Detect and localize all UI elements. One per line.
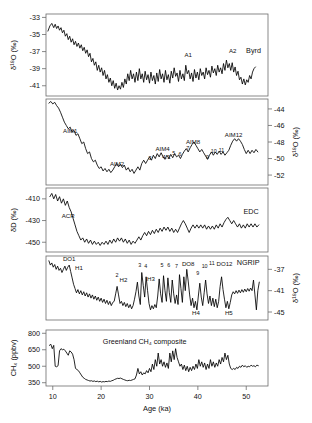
x-tick-label: 50 (242, 392, 250, 401)
annotation-label: 11 (219, 147, 225, 153)
annotation-label: DO12 (217, 260, 234, 267)
y-axis-label: δD (‰) (9, 208, 18, 232)
annotation-label: 11 (209, 260, 215, 266)
y-axis-label: δ¹⁸O (‰) (291, 127, 300, 157)
annotation-label: 7 (175, 263, 178, 269)
annotation-label: Byrd (246, 46, 261, 55)
annotation-label: ACR (62, 212, 75, 219)
annotation-label: 5 (172, 150, 175, 156)
annotation-label: H2 (119, 276, 127, 283)
annotation-label: 5 (161, 262, 164, 268)
x-tick-label: 30 (146, 392, 154, 401)
panel-edml: -44-46-48-50-52δ¹⁸O (‰)AIM1AIM2AIM4AIM8A… (46, 99, 300, 185)
y-tick-label: -45 (274, 308, 284, 317)
y-tick-label: -46 (274, 121, 284, 130)
y-tick-label: -39 (30, 64, 40, 73)
annotation-label: 9 (196, 270, 199, 276)
y-tick-label: -410 (26, 194, 40, 203)
annotation-label: Greenland CH₄ composite (103, 337, 187, 346)
annotation-label: AIM12 (225, 131, 243, 138)
y-tick-label: -37 (274, 265, 284, 274)
data-curve (50, 193, 259, 245)
panel-ngrip: -37-41-45δ¹⁸O (‰)DO1H12H234H3567DO89H410… (46, 255, 300, 320)
annotation-label: EDC (243, 207, 258, 216)
annotation-label: 6 (178, 151, 181, 157)
figure-caption (4, 412, 304, 421)
annotation-label: A1 (184, 51, 192, 58)
annotation-label: 2 (116, 272, 119, 278)
y-axis-label: CH₄ (ppbv) (9, 340, 18, 377)
multi-panel-paleoclimate-chart: -33-35-37-39-41δ¹⁸O (‰)A1A2Byrd-44-46-48… (0, 0, 312, 423)
y-tick-label: -50 (274, 154, 284, 163)
y-axis-label: δ¹⁸O (‰) (291, 273, 300, 303)
annotation-label: 4.1 (162, 153, 171, 160)
data-curve (49, 344, 258, 382)
data-curve (48, 23, 255, 90)
y-tick-label: -35 (30, 30, 40, 39)
annotation-label: 4 (144, 263, 147, 269)
annotation-label: 9 (206, 154, 209, 160)
y-axis-label: δ¹⁸O (‰) (9, 40, 18, 70)
x-tick-label: 10 (49, 392, 57, 401)
annotation-label: 7 (186, 145, 189, 151)
ice-core-figure: -33-35-37-39-41δ¹⁸O (‰)A1A2Byrd-44-46-48… (0, 0, 312, 423)
annotation-label: AIM1 (63, 127, 78, 134)
annotation-label: 3 (138, 262, 141, 268)
y-tick-label: 500 (28, 362, 40, 371)
y-tick-label: -52 (274, 171, 284, 180)
annotation-label: H1 (75, 264, 83, 271)
annotation-label: 6 (167, 262, 170, 268)
annotation-label: H5 (225, 309, 233, 316)
y-tick-label: 650 (28, 345, 40, 354)
annotation-label: 3 (148, 155, 151, 161)
y-tick-label: -48 (274, 138, 284, 147)
annotation-label: H4 (192, 309, 200, 316)
y-tick-label: -33 (30, 13, 40, 22)
y-tick-label: -37 (30, 47, 40, 56)
panel-edc: -410-430-450δD (‰)ACREDC (9, 188, 268, 252)
y-tick-label: -44 (274, 105, 284, 114)
y-tick-label: 350 (28, 378, 40, 387)
x-tick-label: 40 (194, 392, 202, 401)
annotation-label: DO8 (182, 260, 195, 267)
annotation-label: AIM2 (110, 160, 125, 167)
panel-byrd: -33-35-37-39-41δ¹⁸O (‰)A1A2Byrd (9, 13, 268, 96)
annotation-label: A2 (229, 47, 237, 54)
x-axis: 1020304050Age (ka) (49, 386, 250, 413)
y-tick-label: -41 (274, 286, 284, 295)
panel-greenland-ch4-composite: 350500650800CH₄ (ppbv)Greenland CH₄ comp… (9, 329, 268, 387)
y-tick-label: -430 (26, 216, 40, 225)
annotation-label: DO1 (63, 255, 76, 262)
annotation-label: H3 (147, 275, 155, 282)
y-tick-label: 800 (28, 329, 40, 338)
annotation-label: 10 (211, 148, 217, 154)
y-tick-label: -450 (26, 238, 40, 247)
annotation-label: NGRIP (237, 258, 260, 267)
x-tick-label: 20 (97, 392, 105, 401)
annotation-label: 10 (202, 263, 208, 269)
annotation-label: AIM4 (155, 145, 170, 152)
y-tick-label: -41 (30, 81, 40, 90)
